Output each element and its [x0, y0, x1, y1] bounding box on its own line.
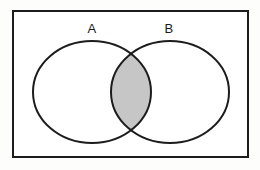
- set-a-label: A: [88, 21, 97, 36]
- venn-diagram-figure: A B: [0, 0, 260, 170]
- venn-diagram-container: A B: [0, 0, 260, 170]
- set-b-label: B: [165, 21, 174, 36]
